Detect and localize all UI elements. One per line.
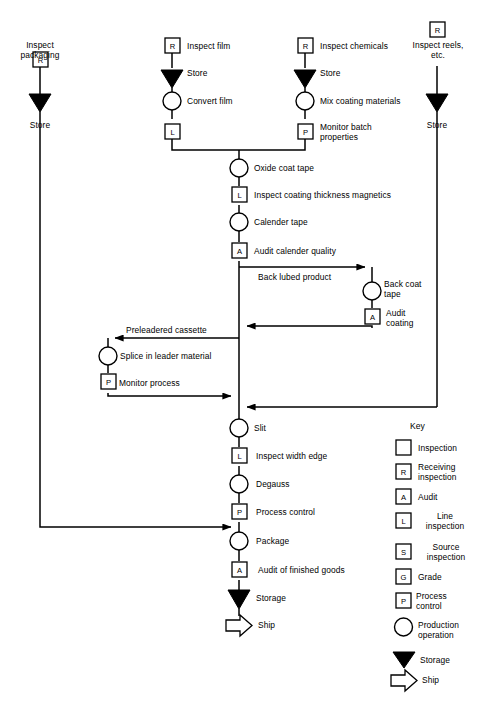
key-label-production-operation: Production operation bbox=[418, 620, 459, 640]
line-splice-return bbox=[108, 393, 231, 396]
key-letter-l: L bbox=[396, 518, 411, 526]
label-mix-coating: Mix coating materials bbox=[320, 96, 400, 106]
label-store-chemicals: Store bbox=[320, 68, 340, 78]
symbol-operation-mix-coating[interactable] bbox=[296, 92, 314, 110]
key-label-storage: Storage bbox=[420, 655, 450, 665]
label-ship-main: Ship bbox=[258, 620, 275, 630]
label-monitor-batch: Monitor batch properties bbox=[320, 122, 372, 142]
label-audit-coating: Audit coating bbox=[386, 308, 414, 328]
symbol-letter-l-film: L bbox=[165, 129, 180, 137]
symbol-operation-degauss[interactable] bbox=[230, 475, 248, 493]
key-label-receiving-inspection: Receiving inspection bbox=[418, 462, 457, 482]
line-packaging-to-main bbox=[40, 518, 231, 527]
label-inspect-chemicals: Inspect chemicals bbox=[320, 41, 388, 51]
key-title: Key bbox=[410, 421, 425, 431]
label-storage-main: Storage bbox=[256, 593, 286, 603]
label-package: Package bbox=[256, 536, 289, 546]
line-backcoat-return bbox=[247, 326, 372, 328]
key-label-grade: Grade bbox=[418, 572, 442, 582]
symbol-storage-packaging[interactable] bbox=[29, 94, 51, 112]
label-convert-film: Convert film bbox=[187, 96, 233, 106]
label-audit-calender-quality: Audit calender quality bbox=[254, 246, 336, 256]
symbol-letter-p-monitor-process: P bbox=[101, 379, 116, 387]
key-symbol-production-operation bbox=[395, 618, 413, 636]
label-back-coat-tape: Back coat tape bbox=[384, 279, 422, 299]
process-flow-diagram bbox=[0, 0, 486, 707]
label-slit: Slit bbox=[254, 423, 266, 433]
label-store-film: Store bbox=[187, 68, 207, 78]
label-splice-leader-material: Splice in leader material bbox=[120, 351, 211, 361]
key-label-line-inspection: Line inspection bbox=[414, 511, 476, 531]
symbol-letter-l-inspect-coating: L bbox=[232, 192, 247, 200]
symbol-letter-r-reels: R bbox=[430, 27, 445, 35]
key-symbol-ship bbox=[391, 670, 417, 691]
symbol-operation-calender-tape[interactable] bbox=[230, 213, 248, 231]
label-degauss: Degauss bbox=[256, 479, 290, 489]
key-label-ship: Ship bbox=[422, 675, 439, 685]
symbol-storage-chemicals[interactable] bbox=[294, 70, 316, 88]
key-label-source-inspection: Source inspection bbox=[414, 542, 478, 562]
key-letter-a: A bbox=[396, 494, 411, 502]
symbol-operation-splice-leader[interactable] bbox=[99, 347, 117, 365]
label-preleadered-cassette: Preleadered cassette bbox=[126, 325, 207, 335]
symbol-operation-back-coat-tape[interactable] bbox=[363, 282, 381, 300]
label-oxide-coat-tape: Oxide coat tape bbox=[254, 163, 314, 173]
label-monitor-process: Monitor process bbox=[119, 378, 180, 388]
symbol-operation-slit[interactable] bbox=[230, 419, 248, 437]
symbol-letter-a-audit-calender: A bbox=[232, 248, 247, 256]
key-letter-g: G bbox=[396, 574, 411, 582]
symbol-letter-r-film: R bbox=[165, 43, 180, 51]
label-inspect-packaging: Inspect packaging bbox=[0, 40, 85, 60]
symbol-letter-p-process-control: P bbox=[232, 509, 247, 517]
symbol-storage-reels[interactable] bbox=[426, 94, 448, 112]
label-calender-tape: Calender tape bbox=[254, 217, 308, 227]
symbol-operation-convert-film[interactable] bbox=[163, 92, 181, 110]
label-audit-finished-goods: Audit of finished goods bbox=[258, 565, 345, 575]
symbol-letter-l-inspect-width: L bbox=[232, 453, 247, 461]
label-inspect-reels: Inspect reels, etc. bbox=[393, 40, 483, 60]
symbol-letter-p-chemicals: P bbox=[298, 129, 313, 137]
label-inspect-coating-thickness: Inspect coating thickness magnetics bbox=[254, 190, 391, 200]
key-letter-p: P bbox=[396, 598, 411, 606]
label-inspect-width-edge: Inspect width edge bbox=[256, 451, 327, 461]
symbol-ship-main[interactable] bbox=[226, 615, 252, 636]
line-film-merge bbox=[172, 139, 239, 150]
key-label-audit: Audit bbox=[418, 492, 438, 502]
label-store-packaging: Store bbox=[10, 120, 70, 130]
symbol-storage-main[interactable] bbox=[228, 590, 250, 609]
key-label-process-control: Process control bbox=[416, 591, 447, 611]
key-symbol-storage bbox=[393, 652, 415, 668]
key-symbol-inspection bbox=[396, 440, 411, 455]
symbol-storage-film[interactable] bbox=[161, 70, 183, 88]
label-store-reels: Store bbox=[407, 120, 467, 130]
key-letter-r: R bbox=[396, 469, 411, 477]
label-process-control: Process control bbox=[256, 507, 315, 517]
label-inspect-film: Inspect film bbox=[187, 41, 230, 51]
symbol-operation-package[interactable] bbox=[230, 532, 248, 550]
symbol-letter-r-chemicals: R bbox=[298, 43, 313, 51]
symbol-letter-a-audit-finished: A bbox=[232, 567, 247, 575]
symbol-letter-a-audit-coating: A bbox=[365, 314, 380, 322]
label-back-lubed-product: Back lubed product bbox=[258, 272, 331, 282]
line-chem-merge bbox=[239, 139, 305, 150]
key-label-inspection: Inspection bbox=[418, 443, 457, 453]
key-letter-s: S bbox=[396, 549, 411, 557]
symbol-operation-oxide-coat[interactable] bbox=[230, 159, 248, 177]
